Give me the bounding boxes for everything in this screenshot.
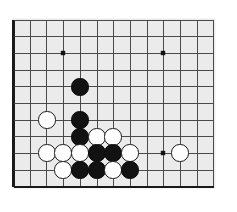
black-stone-6[interactable] xyxy=(71,161,88,178)
white-stone-6[interactable] xyxy=(71,144,88,161)
star-point-upper-right xyxy=(161,51,165,55)
white-stone-4[interactable] xyxy=(38,144,55,161)
goban-svg[interactable] xyxy=(0,0,237,212)
white-stone-9[interactable] xyxy=(54,161,71,178)
white-stone-5[interactable] xyxy=(54,144,71,161)
black-stone-2[interactable] xyxy=(71,111,88,128)
white-stone-8[interactable] xyxy=(171,144,188,161)
black-stone-3[interactable] xyxy=(71,128,88,145)
black-stone-1[interactable] xyxy=(71,78,88,95)
white-stone-10[interactable] xyxy=(104,161,121,178)
white-stone-2[interactable] xyxy=(88,128,105,145)
go-diagram-screen xyxy=(0,0,237,212)
black-stone-4[interactable] xyxy=(88,144,105,161)
white-stone-1[interactable] xyxy=(38,111,55,128)
white-stone-7[interactable] xyxy=(121,144,138,161)
star-point-upper-left xyxy=(61,51,65,55)
star-point-lower-right xyxy=(161,151,165,155)
black-stone-8[interactable] xyxy=(121,161,138,178)
black-stone-7[interactable] xyxy=(88,161,105,178)
go-board[interactable] xyxy=(0,0,237,212)
white-stone-3[interactable] xyxy=(104,128,121,145)
black-stone-5[interactable] xyxy=(104,144,121,161)
